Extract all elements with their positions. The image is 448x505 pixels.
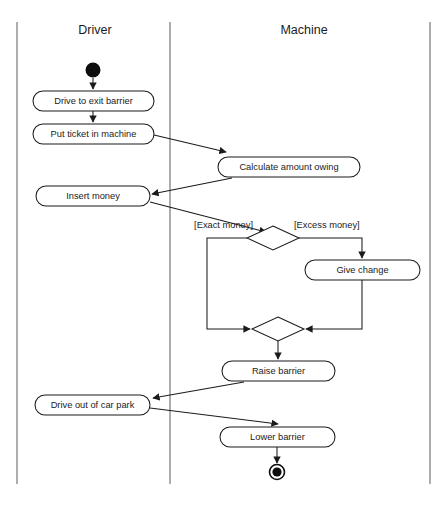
flow-give-change-to-merge [306,280,362,329]
action-put-ticket-in-machine[interactable]: Put ticket in machine [33,124,154,144]
action-label: Drive out of car park [51,400,135,410]
action-label: Lower barrier [250,432,305,442]
flow-drive-out-to-lower-barrier [150,408,278,424]
uml-activity-diagram: Driver Machine Drive to exit barrier [0,0,448,505]
action-drive-out-of-car-park[interactable]: Drive out of car park [35,395,150,415]
action-label: Drive to exit barrier [54,96,133,106]
guard-label-excess-money: [Excess money] [294,220,360,230]
merge-node-payment[interactable] [252,317,304,341]
action-label: Raise barrier [252,366,305,376]
lane-header-machine: Machine [280,23,327,37]
action-label: Calculate amount owing [239,162,338,172]
activity-diagram-canvas: Driver Machine Drive to exit barrier [0,0,448,505]
final-node-icon [270,465,285,480]
final-node-core [272,467,281,476]
flow-calculate-to-insert-money [152,178,232,194]
action-label: Insert money [66,191,120,201]
lane-header-driver: Driver [78,23,111,37]
guard-label-exact-money: [Exact money] [194,220,253,230]
initial-node-icon [86,63,101,78]
action-label: Give change [336,265,388,275]
action-lower-barrier[interactable]: Lower barrier [220,427,335,447]
action-raise-barrier[interactable]: Raise barrier [222,361,335,381]
flow-decision-exact-to-merge [207,238,250,329]
action-label: Put ticket in machine [51,129,137,139]
flow-decision-excess-to-give-change [299,238,362,258]
action-insert-money[interactable]: Insert money [36,186,150,206]
action-give-change[interactable]: Give change [305,260,420,280]
action-drive-to-exit-barrier[interactable]: Drive to exit barrier [33,91,154,111]
action-calculate-amount-owing[interactable]: Calculate amount owing [218,157,360,177]
flow-put-ticket-to-calculate [154,135,226,152]
flow-raise-barrier-to-drive-out [153,382,244,398]
